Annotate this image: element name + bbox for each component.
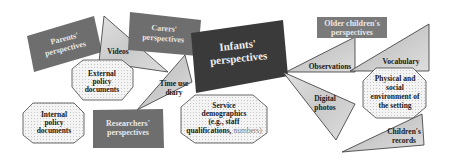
svg-text:Time use: Time use [160, 79, 189, 88]
svg-text:qualifications, numbers): qualifications, numbers) [186, 126, 262, 135]
svg-text:documents: documents [85, 85, 120, 94]
service-demographics-line4: qualifications, [186, 126, 231, 135]
observations-triangle: Observations [286, 37, 355, 72]
internal-policy-documents-octagon: Internal policy documents [23, 103, 84, 143]
infants-perspectives-box: Infants' perspectives [191, 20, 288, 93]
svg-text:Children's: Children's [387, 127, 421, 136]
svg-text:Researchers': Researchers' [106, 119, 150, 128]
svg-text:Physical and: Physical and [375, 74, 416, 83]
service-demographics-octagon: Service demographics (e.g., staff qualif… [181, 95, 267, 143]
svg-text:perspectives: perspectives [331, 28, 373, 37]
svg-text:diary: diary [165, 88, 182, 97]
svg-text:(e.g., staff: (e.g., staff [208, 117, 240, 126]
svg-text:social: social [386, 83, 404, 92]
digital-photos-triangle: Digital photos [283, 72, 355, 140]
svg-text:perspectives: perspectives [107, 128, 149, 137]
service-demographics-suffix: numbers) [233, 126, 262, 135]
infants-perspectives-diagram: Parents' perspectives Videos Carers' per… [0, 0, 451, 160]
older-childrens-perspectives-box: Older children's perspectives [317, 17, 387, 38]
svg-text:Carers': Carers' [151, 23, 177, 34]
svg-text:records: records [392, 136, 416, 145]
carers-perspectives-box: Carers' perspectives [128, 12, 201, 56]
svg-text:Older children's: Older children's [324, 19, 380, 28]
svg-text:documents: documents [37, 126, 72, 135]
svg-text:environment of: environment of [371, 92, 420, 101]
svg-text:Vocabulary: Vocabulary [383, 57, 420, 66]
svg-text:Digital: Digital [314, 94, 336, 103]
childrens-records-triangle: Children's records [342, 114, 424, 152]
external-policy-documents-octagon: External policy documents [72, 60, 133, 100]
physical-social-environment-octagon: Physical and social environment of the s… [363, 68, 426, 118]
svg-text:the setting: the setting [378, 101, 411, 110]
svg-text:Videos: Videos [107, 47, 128, 56]
svg-text:Observations: Observations [309, 62, 352, 71]
svg-text:photos: photos [314, 103, 335, 112]
researchers-perspectives-box: Researchers' perspectives [93, 109, 164, 148]
